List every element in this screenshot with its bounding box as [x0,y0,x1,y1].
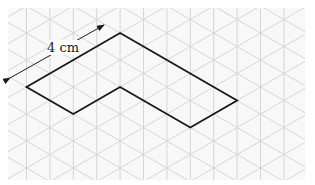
isometric-diagram: 4 cm [0,0,315,185]
grid-line [0,180,315,185]
grid-line [0,180,315,185]
dimension-label: 4 cm [47,40,79,55]
